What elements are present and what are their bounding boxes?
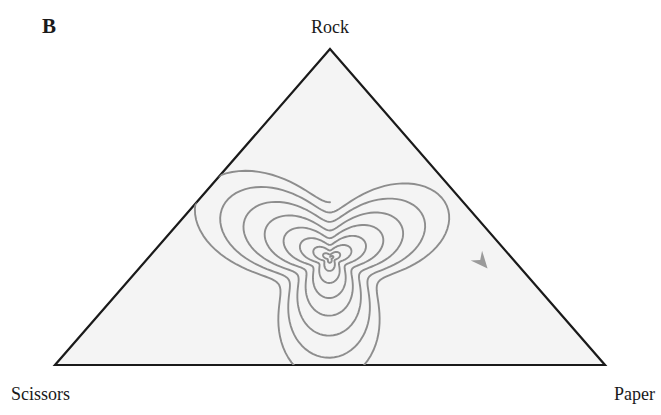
- vertex-label-rock: Rock: [311, 18, 349, 36]
- panel-letter-label: B: [42, 16, 56, 37]
- vertex-label-paper: Paper: [614, 385, 655, 403]
- simplex-phase-portrait: [0, 0, 661, 415]
- simplex-triangle: [55, 49, 605, 365]
- figure-panel-b: B Rock Scissors Paper: [0, 0, 661, 415]
- vertex-label-scissors: Scissors: [11, 385, 70, 403]
